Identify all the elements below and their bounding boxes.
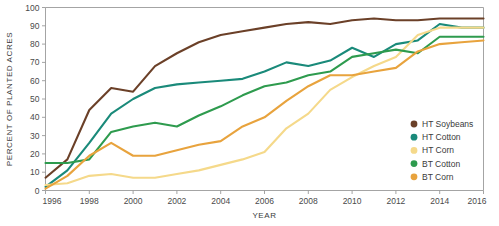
legend-swatch	[411, 121, 418, 128]
x-tick-label: 2016	[468, 196, 487, 206]
legend-swatch	[411, 173, 418, 180]
y-axis: 0102030405060708090100	[25, 3, 45, 196]
x-tick-label: 2014	[430, 196, 449, 206]
x-tick-label: 1998	[80, 196, 99, 206]
y-tick-label: 40	[30, 112, 40, 122]
chart-container: 0102030405060708090100199619982000200220…	[0, 0, 499, 226]
y-tick-label: 70	[30, 57, 40, 67]
legend-label: HT Corn	[422, 145, 454, 155]
x-tick-label: 1996	[43, 196, 62, 206]
legend-swatch	[411, 147, 418, 154]
line-chart: 0102030405060708090100199619982000200220…	[0, 0, 499, 226]
y-tick-label: 50	[30, 94, 40, 104]
series-group	[46, 18, 484, 188]
x-tick-label: 2000	[124, 196, 143, 206]
y-tick-label: 80	[30, 39, 40, 49]
y-tick-label: 60	[30, 76, 40, 86]
x-tick-label: 2012	[386, 196, 405, 206]
legend-label: BT Corn	[422, 172, 454, 182]
y-tick-label: 30	[30, 131, 40, 141]
legend-label: HT Cotton	[422, 132, 461, 142]
legend-swatch	[411, 134, 418, 141]
y-tick-label: 90	[30, 21, 40, 31]
legend-label: BT Cotton	[422, 159, 460, 169]
y-tick-label: 10	[30, 167, 40, 177]
x-tick-label: 2008	[299, 196, 318, 206]
chart-legend: HT SoybeansHT CottonHT CornBT CottonBT C…	[411, 119, 474, 182]
series-line-ht-cotton	[46, 24, 484, 187]
x-tick-label: 2006	[255, 196, 274, 206]
x-tick-label: 2002	[167, 196, 186, 206]
legend-swatch	[411, 160, 418, 167]
x-tick-label: 2004	[211, 196, 230, 206]
y-axis-title: PERCENT OF PLANTED ACRES	[5, 32, 14, 166]
series-line-ht-soybeans	[46, 18, 484, 177]
y-tick-label: 0	[35, 186, 40, 196]
legend-label: HT Soybeans	[422, 119, 473, 129]
x-axis-title: YEAR	[252, 211, 276, 220]
y-tick-label: 20	[30, 149, 40, 159]
x-axis: 1996199820002002200420062008201020122014…	[43, 191, 487, 206]
x-tick-label: 2010	[343, 196, 362, 206]
y-tick-label: 100	[25, 3, 39, 13]
